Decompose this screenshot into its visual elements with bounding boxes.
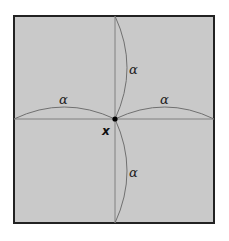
point-x-dot: [112, 116, 117, 121]
label-arc-left: α: [59, 92, 68, 107]
label-arc-top: α: [129, 62, 138, 77]
label-arc-right: α: [160, 92, 169, 107]
label-arc-bottom: α: [129, 165, 138, 180]
label-point-x: x: [101, 124, 111, 138]
diagram-canvas: α α α α x: [0, 0, 229, 241]
